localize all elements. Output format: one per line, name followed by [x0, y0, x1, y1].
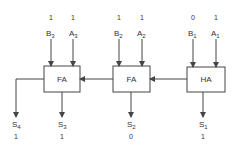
input-b1-label: B1 [188, 29, 197, 39]
output-s1-label: S1 [199, 120, 208, 130]
output-s4-label: S4 [12, 120, 21, 130]
output-s2-label: S2 [127, 120, 136, 130]
input-values: 1 1 1 1 0 1 [49, 14, 218, 21]
output-s3-value: 1 [60, 133, 64, 140]
block-fa2: FA [113, 66, 150, 92]
output-values: 1 1 0 1 [14, 133, 205, 140]
block-ha1: HA [187, 67, 225, 92]
output-names: S4 S3 S2 S1 [12, 120, 208, 130]
input-a3-label: A3 [69, 29, 78, 39]
input-b2-value: 1 [117, 14, 121, 21]
input-a2-label: A2 [137, 29, 146, 39]
input-names: B3 A3 B2 A2 B1 A1 [46, 29, 220, 39]
block-fa3-label: FA [57, 75, 67, 84]
input-b3-value: 1 [49, 14, 53, 21]
output-s2-value: 0 [129, 133, 133, 140]
output-s4-value: 1 [14, 133, 18, 140]
input-a1-value: 1 [214, 14, 218, 21]
block-fa2-label: FA [127, 75, 137, 84]
block-ha1-label: HA [200, 75, 212, 84]
block-fa3: FA [44, 66, 80, 92]
input-arrows [51, 39, 216, 67]
adder-diagram: FA FA HA 1 1 1 1 0 1 B3 A3 [0, 0, 233, 145]
input-a3-value: 1 [71, 14, 75, 21]
output-s1-value: 1 [201, 133, 205, 140]
output-s3-label: S3 [58, 120, 67, 130]
input-b1-value: 0 [191, 14, 195, 21]
input-a1-label: A1 [211, 29, 220, 39]
input-b2-label: B2 [114, 29, 123, 39]
input-a2-value: 1 [140, 14, 144, 21]
input-b3-label: B3 [46, 29, 55, 39]
